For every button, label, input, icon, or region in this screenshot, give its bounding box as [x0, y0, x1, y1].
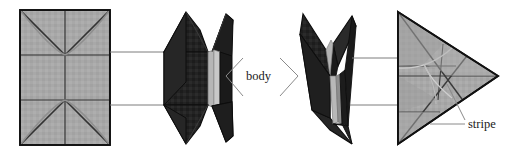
fold-facet-lower-right-inner [212, 102, 233, 142]
label-body: body [246, 69, 272, 83]
stripe-band-front-highlight [214, 50, 220, 108]
stripe-band-front [208, 50, 214, 108]
panel-unfolded-rectangle [20, 10, 110, 145]
label-stripe: stripe [468, 117, 496, 131]
origami-diagram-figure: body [0, 0, 519, 155]
diagram-canvas: body [0, 0, 519, 155]
fold-facet-right-column [220, 52, 232, 106]
panel-folded-dark-front [164, 12, 233, 144]
leader-body-right [280, 58, 298, 96]
panel-folded-dark-side [300, 14, 356, 144]
fold-facet-upper-right-inner [212, 14, 233, 56]
